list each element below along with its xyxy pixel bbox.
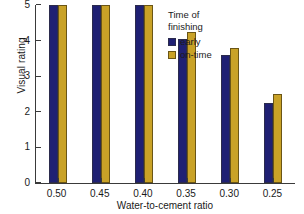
x-axis-tick-label: 0.30: [209, 188, 249, 199]
x-axis-tick-mark: [230, 178, 231, 183]
x-axis-tick-label: 0.35: [166, 188, 206, 199]
y-axis-tick-mark: [36, 182, 41, 183]
y-axis-tick-label: 2: [24, 107, 30, 117]
y-axis-tick-mark: [36, 76, 41, 77]
y-axis-tick-label: 3: [24, 71, 30, 81]
bar-early-0.50: [49, 5, 58, 183]
legend-swatch-on-time: [168, 51, 176, 59]
bar-chart-figure: Visual rating 012345 0.500.450.400.350.3…: [0, 0, 304, 214]
bar-on-time-0.25: [273, 94, 282, 183]
x-axis-tick-mark: [101, 178, 102, 183]
y-axis-tick-mark: [36, 147, 41, 148]
x-axis-tick-label: 0.45: [80, 188, 120, 199]
bar-early-0.30: [221, 55, 230, 183]
bar-on-time-0.40: [144, 5, 153, 183]
x-axis-title: Water-to-cement ratio: [35, 200, 295, 211]
y-axis-tick-labels: 012345: [10, 0, 30, 190]
bar-early-0.40: [135, 5, 144, 183]
x-axis-tick-mark: [273, 178, 274, 183]
legend-title: Time of finishing: [168, 9, 260, 32]
y-axis-tick-label: 1: [24, 142, 30, 152]
legend-item-early: early: [168, 36, 260, 48]
legend-swatch-early: [168, 38, 176, 46]
y-axis-tick-label: 0: [24, 178, 30, 188]
y-axis-tick-mark: [36, 4, 41, 5]
x-axis-tick-label: 0.25: [252, 188, 292, 199]
legend-label: on-time: [180, 49, 212, 61]
bar-early-0.25: [264, 103, 273, 183]
bar-on-time-0.30: [230, 48, 239, 183]
legend-item-on-time: on-time: [168, 49, 260, 61]
y-axis-tick-mark: [36, 40, 41, 41]
x-axis-tick-label: 0.50: [37, 188, 77, 199]
legend-label: early: [180, 36, 201, 48]
x-axis-tick-mark: [144, 178, 145, 183]
y-axis-tick-label: 4: [24, 36, 30, 46]
y-axis-tick-mark: [36, 111, 41, 112]
bar-on-time-0.50: [58, 5, 67, 183]
x-axis-tick-mark: [58, 178, 59, 183]
y-axis-tick-label: 5: [24, 0, 30, 10]
bar-early-0.45: [92, 5, 101, 183]
legend-entries: earlyon-time: [168, 36, 260, 61]
legend: Time of finishing earlyon-time: [168, 9, 260, 62]
bar-on-time-0.45: [101, 5, 110, 183]
x-axis-tick-label: 0.40: [123, 188, 163, 199]
x-axis-tick-mark: [187, 178, 188, 183]
